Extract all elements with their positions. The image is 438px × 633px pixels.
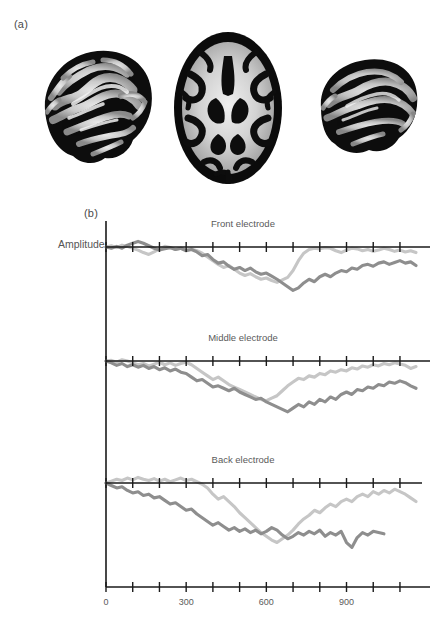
x-tick-label: 300 xyxy=(179,597,194,607)
brain-image-row xyxy=(0,22,438,187)
panel-label-middle: Middle electrode xyxy=(208,332,278,343)
erp-panel-front: Front electrode xyxy=(106,218,430,290)
erp-panel-middle: Middle electrode xyxy=(106,332,430,412)
x-tick-label: 0 xyxy=(103,597,108,607)
erp-waveform-chart: Front electrodeMiddle electrodeBack elec… xyxy=(0,195,438,633)
brain-mri-sagittal-left xyxy=(33,36,161,176)
x-axis: 0300600900 xyxy=(103,582,430,607)
erp-trace-middle-dark-trace xyxy=(106,361,416,412)
x-tick-label: 900 xyxy=(339,597,354,607)
brain-mri-axial xyxy=(160,22,296,194)
erp-panel-back: Back electrode xyxy=(106,454,422,547)
panel-label-front: Front electrode xyxy=(211,218,275,229)
x-tick-label: 600 xyxy=(259,597,274,607)
brain-mri-sagittal-right xyxy=(305,50,427,170)
erp-trace-back-dark-trace xyxy=(106,483,384,547)
panel-label-back: Back electrode xyxy=(212,454,275,465)
